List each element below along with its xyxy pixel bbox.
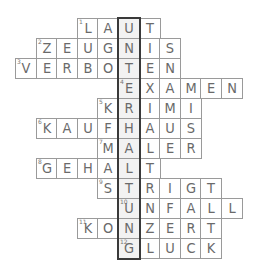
crossword-cell[interactable]: A [159, 78, 181, 99]
crossword-cell[interactable]: L [139, 238, 161, 259]
cell-letter: R [186, 141, 195, 157]
crossword-cell[interactable]: A [97, 158, 119, 179]
cell-letter: E [125, 81, 133, 97]
cell-letter: F [104, 121, 111, 137]
crossword-cell[interactable]: 4E [118, 78, 140, 99]
crossword-cell[interactable]: R [180, 138, 202, 159]
crossword-cell[interactable]: B [77, 58, 99, 79]
crossword-cell[interactable]: U [159, 118, 181, 139]
crossword-cell[interactable]: M [159, 98, 181, 119]
crossword-cell[interactable]: N [118, 38, 140, 59]
crossword-cell[interactable]: E [159, 138, 181, 159]
crossword-cell[interactable]: U [77, 38, 99, 59]
crossword-cell[interactable]: T [139, 158, 161, 179]
cell-letter: A [125, 141, 134, 157]
crossword-cell[interactable]: 1L [77, 18, 99, 39]
crossword-cell[interactable]: L [200, 198, 222, 219]
crossword-cell[interactable]: N [159, 58, 181, 79]
cell-letter: E [166, 141, 174, 157]
crossword-cell[interactable]: 5K [97, 98, 119, 119]
crossword-cell[interactable]: I [139, 98, 161, 119]
crossword-cell[interactable]: F [159, 198, 181, 219]
crossword-cell[interactable]: R [180, 218, 202, 239]
crossword-cell[interactable]: A [56, 118, 78, 139]
crossword-cell[interactable]: E [159, 218, 181, 239]
crossword-cell[interactable]: L [139, 138, 161, 159]
crossword-cell[interactable]: U [118, 18, 140, 39]
crossword-cell[interactable]: U [159, 238, 181, 259]
crossword-cell[interactable]: I [139, 38, 161, 59]
crossword-cell[interactable]: L [118, 158, 140, 179]
crossword-cell[interactable]: E [200, 78, 222, 99]
crossword-cell[interactable]: 10U [118, 198, 140, 219]
crossword-cell[interactable]: 9S [97, 178, 119, 199]
crossword-cell[interactable]: A [139, 118, 161, 139]
crossword-cell[interactable]: I [180, 98, 202, 119]
cell-letter: T [125, 181, 133, 197]
crossword-cell[interactable]: K [200, 238, 222, 259]
crossword-cell[interactable]: T [200, 218, 222, 239]
cell-letter: V [22, 61, 31, 77]
cell-letter: L [125, 161, 132, 177]
cell-letter: L [228, 201, 235, 217]
crossword-cell[interactable]: R [118, 98, 140, 119]
crossword-cell[interactable]: N [139, 198, 161, 219]
crossword-cell[interactable]: U [77, 118, 99, 139]
crossword-cell[interactable]: A [180, 198, 202, 219]
crossword-cell[interactable]: 11K [77, 218, 99, 239]
crossword-cell[interactable]: N [118, 218, 140, 239]
cell-letter: N [165, 61, 175, 77]
crossword-cell[interactable]: R [139, 178, 161, 199]
clue-number: 6 [38, 119, 42, 125]
crossword-cell[interactable]: X [139, 78, 161, 99]
crossword-cell[interactable]: O [97, 218, 119, 239]
crossword-cell[interactable]: H [77, 158, 99, 179]
crossword-cell[interactable]: C [180, 238, 202, 259]
cell-letter: A [104, 21, 113, 37]
crossword-cell[interactable]: I [159, 178, 181, 199]
crossword-cell[interactable]: H [118, 118, 140, 139]
crossword-cell[interactable]: E [56, 158, 78, 179]
crossword-cell[interactable]: M [180, 78, 202, 99]
cell-letter: A [63, 121, 72, 137]
crossword-cell[interactable]: N [221, 78, 243, 99]
crossword-cell[interactable]: 12G [118, 238, 140, 259]
crossword-cell[interactable]: A [97, 18, 119, 39]
crossword-cell[interactable]: 2Z [36, 38, 58, 59]
crossword-cell[interactable]: 8G [36, 158, 58, 179]
crossword-cell[interactable]: O [97, 58, 119, 79]
crossword-cell[interactable]: 7M [97, 138, 119, 159]
crossword-cell[interactable]: G [97, 38, 119, 59]
crossword-cell[interactable]: G [180, 178, 202, 199]
cell-letter: U [165, 121, 175, 137]
crossword-cell[interactable]: S [180, 118, 202, 139]
crossword-cell[interactable]: L [221, 198, 243, 219]
cell-letter: N [124, 41, 134, 57]
crossword-cell[interactable]: 6K [36, 118, 58, 139]
crossword-cell[interactable]: T [118, 58, 140, 79]
crossword-cell[interactable]: E [56, 38, 78, 59]
crossword-cell[interactable]: 3V [15, 58, 37, 79]
cell-letter: E [43, 61, 51, 77]
crossword-cell[interactable]: T [200, 178, 222, 199]
cell-letter: Z [43, 41, 52, 57]
crossword-cell[interactable]: A [118, 138, 140, 159]
crossword-cell[interactable]: R [56, 58, 78, 79]
cell-letter: R [62, 61, 71, 77]
cell-letter: K [84, 221, 93, 237]
crossword-cell[interactable]: E [139, 58, 161, 79]
cell-letter: S [166, 41, 174, 57]
cell-letter: E [146, 61, 154, 77]
crossword-cell[interactable]: Z [139, 218, 161, 239]
cell-letter: G [186, 181, 196, 197]
crossword-cell[interactable]: E [36, 58, 58, 79]
crossword-cell[interactable]: S [159, 38, 181, 59]
cell-letter: R [145, 181, 154, 197]
crossword-cell[interactable]: T [139, 18, 161, 39]
cell-letter: L [207, 201, 214, 217]
crossword-cell[interactable]: F [97, 118, 119, 139]
cell-letter: A [166, 81, 175, 97]
crossword-grid: 1LAUT2ZEUGNIS3VERBOTEN4EXAMEN5KRIMI6KAUF… [0, 0, 261, 277]
cell-letter: I [168, 181, 172, 197]
crossword-cell[interactable]: T [118, 178, 140, 199]
